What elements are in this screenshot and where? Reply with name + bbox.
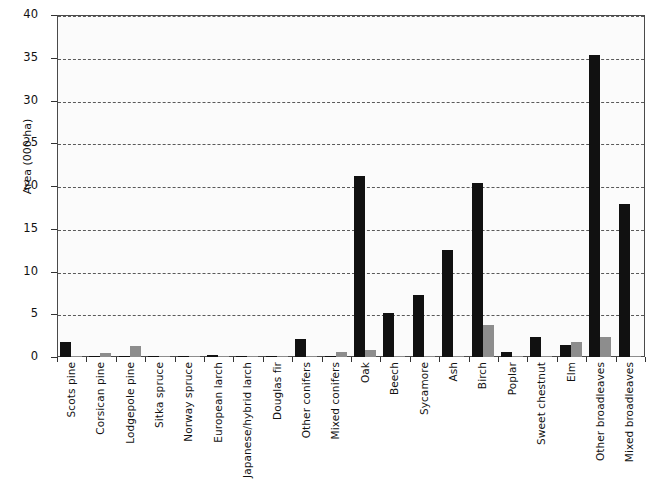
bar-light	[394, 356, 405, 357]
x-tick-label: European larch	[213, 362, 224, 443]
x-tick-label: Birch	[477, 362, 488, 389]
bar-light	[600, 337, 611, 357]
bar-dark	[60, 342, 71, 357]
bar-dark	[178, 356, 189, 357]
y-tick-label: 40	[0, 9, 38, 21]
x-tick-label: Elm	[566, 362, 577, 382]
bar-group	[175, 15, 204, 357]
bar-group	[233, 15, 262, 357]
x-tick-label: Lodgepole pine	[125, 362, 136, 444]
y-tick-label: 10	[0, 266, 38, 278]
bar-light	[365, 350, 376, 357]
bar-dark	[325, 356, 336, 357]
x-tick-label: Corsican pine	[95, 362, 106, 435]
x-tick-label: Poplar	[507, 362, 518, 395]
x-tick-label: Japanese/hybrid larch	[242, 362, 253, 478]
bar-group	[204, 15, 233, 357]
y-tick-label: 0	[0, 351, 38, 363]
bar-dark	[501, 352, 512, 357]
bar-light	[277, 356, 288, 357]
x-tick-label: Scots pine	[66, 362, 77, 417]
bar-light	[247, 356, 258, 357]
y-tick-label: 15	[0, 223, 38, 235]
bar-group	[57, 15, 86, 357]
x-axis-labels: Scots pineCorsican pineLodgepole pineSit…	[57, 362, 645, 485]
bar-light	[571, 342, 582, 357]
bar-group	[351, 15, 380, 357]
y-tick-label: 5	[0, 308, 38, 320]
bar-light	[512, 356, 523, 357]
bar-dark	[619, 204, 630, 357]
bar-group	[380, 15, 409, 357]
y-tick-label: 20	[0, 180, 38, 192]
bar-dark	[89, 356, 100, 357]
x-tick-mark	[645, 357, 646, 362]
bar-group	[292, 15, 321, 357]
bar-light	[483, 325, 494, 357]
bar-light	[306, 356, 317, 357]
x-tick-label: Sycamore	[419, 362, 430, 415]
bar-light	[189, 356, 200, 357]
x-tick-label: Beech	[389, 362, 400, 395]
bar-group	[410, 15, 439, 357]
x-tick-label: Mixed broadleaves	[624, 362, 635, 462]
x-tick-label: Douglas fir	[272, 362, 283, 420]
bar-group	[527, 15, 556, 357]
bar-light	[159, 356, 170, 357]
x-tick-label: Norway spruce	[183, 362, 194, 442]
bar-light	[218, 356, 229, 357]
bar-dark	[207, 355, 218, 357]
x-tick-label: Ash	[448, 362, 459, 382]
y-tick-label: 25	[0, 137, 38, 149]
bar-light	[630, 356, 641, 357]
bar-chart: Area (000 ha) 0510152025303540 Scots pin…	[0, 0, 657, 485]
bar-dark	[354, 176, 365, 357]
bar-dark	[383, 313, 394, 357]
bar-group	[557, 15, 586, 357]
bar-light	[336, 352, 347, 357]
x-tick-label: Sitka spruce	[154, 362, 165, 428]
bar-dark	[266, 356, 277, 357]
bar-dark	[148, 356, 159, 357]
bar-group	[322, 15, 351, 357]
bar-group	[116, 15, 145, 357]
bar-group	[498, 15, 527, 357]
bar-dark	[560, 345, 571, 357]
bar-group	[439, 15, 468, 357]
bar-dark	[530, 337, 541, 357]
bar-dark	[295, 339, 306, 357]
bar-dark	[589, 55, 600, 357]
x-tick-label: Other broadleaves	[595, 362, 606, 461]
bar-group	[469, 15, 498, 357]
bars-layer	[57, 15, 645, 357]
bar-light	[130, 346, 141, 357]
y-tick-label: 30	[0, 95, 38, 107]
bar-dark	[236, 356, 247, 357]
bar-light	[100, 353, 111, 357]
bar-dark	[472, 183, 483, 357]
y-tick-label: 35	[0, 52, 38, 64]
bar-light	[453, 356, 464, 357]
bar-dark	[413, 295, 424, 357]
bar-group	[145, 15, 174, 357]
bar-group	[263, 15, 292, 357]
bar-group	[586, 15, 615, 357]
bar-dark	[119, 356, 130, 357]
bar-dark	[442, 250, 453, 357]
x-tick-label: Sweet chestnut	[536, 362, 547, 445]
bar-light	[541, 356, 552, 357]
bar-light	[71, 356, 82, 357]
x-tick-label: Oak	[360, 362, 371, 383]
x-tick-label: Mixed conifers	[330, 362, 341, 439]
x-tick-label: Other conifers	[301, 362, 312, 438]
bar-group	[616, 15, 645, 357]
bar-group	[86, 15, 115, 357]
bar-light	[424, 356, 435, 357]
